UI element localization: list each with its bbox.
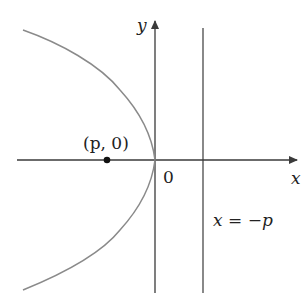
focus-label: (p, 0) bbox=[83, 133, 129, 153]
y-axis-label: y bbox=[136, 15, 147, 35]
origin-label: 0 bbox=[163, 167, 174, 187]
x-axis-label: x bbox=[291, 168, 301, 188]
diagram-svg: y x 0 (p, 0) x = −p bbox=[0, 0, 301, 303]
directrix-label: x = −p bbox=[213, 210, 273, 230]
parabola-diagram: y x 0 (p, 0) x = −p bbox=[0, 0, 301, 303]
focus-point bbox=[104, 157, 111, 164]
